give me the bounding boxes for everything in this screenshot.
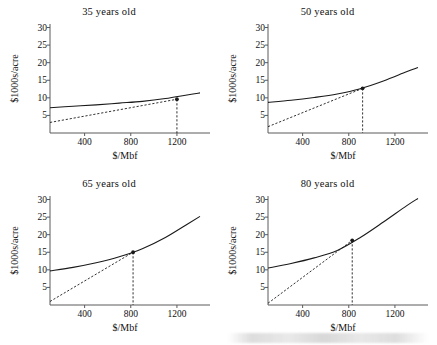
x-tick-label: 1200 (385, 309, 404, 319)
y-tick-label: 20 (256, 230, 266, 240)
axis-lines (50, 24, 210, 133)
plot-area: 510152025304008001200 (50, 24, 200, 133)
x-tick-label: 800 (342, 309, 356, 319)
panel-65-years: 65 years old $1000s/acre 510152025304008… (0, 172, 218, 345)
plot-area: 510152025304008001200 (268, 196, 418, 305)
y-tick-label: 15 (38, 247, 48, 257)
y-tick-label: 20 (38, 230, 48, 240)
y-tick-label: 5 (260, 110, 265, 120)
panel-title: 50 years old (218, 6, 437, 17)
y-tick-label: 30 (38, 23, 48, 33)
panel-title: 65 years old (0, 178, 218, 189)
y-tick-label: 10 (38, 265, 48, 275)
y-tick-label: 15 (256, 247, 266, 257)
y-tick-label: 25 (38, 40, 48, 50)
value-curve-line (268, 68, 418, 103)
plot-svg (50, 196, 200, 305)
panel-50-years: 50 years old $1000s/acre 510152025304008… (218, 0, 437, 172)
plot-svg (50, 24, 200, 133)
x-tick-label: 800 (124, 137, 138, 147)
x-tick-label: 1200 (167, 137, 186, 147)
y-tick-label: 10 (38, 93, 48, 103)
tangent-ray-line (50, 99, 177, 122)
x-axis-label: $/Mbf (268, 150, 418, 161)
x-tick-label: 400 (295, 309, 309, 319)
plot-svg (268, 196, 418, 305)
x-axis-label: $/Mbf (50, 322, 200, 333)
y-tick-label: 30 (256, 23, 266, 33)
y-tick-label: 5 (260, 282, 265, 292)
tangency-point-marker (131, 250, 135, 254)
tangency-point-marker (175, 97, 179, 101)
panel-80-years: 80 years old $1000s/acre 510152025304008… (218, 172, 437, 345)
y-axis-label: $1000s/acre (6, 196, 22, 305)
y-axis-label: $1000s/acre (224, 196, 240, 305)
y-tick-label: 30 (256, 195, 266, 205)
tangent-ray-line (268, 88, 363, 126)
y-tick-label: 25 (256, 40, 266, 50)
panel-title: 35 years old (0, 6, 218, 17)
panel-35-years: 35 years old $1000s/acre 510152025304008… (0, 0, 218, 172)
y-tick-label: 30 (38, 195, 48, 205)
axis-lines (268, 196, 428, 305)
y-tick-label: 20 (256, 58, 266, 68)
tangency-point-marker (361, 86, 365, 90)
x-tick-label: 1200 (167, 309, 186, 319)
plot-area: 510152025304008001200 (268, 24, 418, 133)
y-tick-label: 10 (256, 93, 266, 103)
tangency-point-marker (350, 238, 354, 242)
y-tick-label: 15 (38, 75, 48, 85)
y-tick-label: 20 (38, 58, 48, 68)
y-tick-label: 10 (256, 265, 266, 275)
y-tick-label: 5 (42, 110, 47, 120)
x-tick-label: 400 (77, 309, 91, 319)
x-axis-label: $/Mbf (268, 322, 418, 333)
x-tick-label: 800 (124, 309, 138, 319)
y-tick-label: 25 (38, 212, 48, 222)
plot-svg (268, 24, 418, 133)
x-tick-label: 400 (77, 137, 91, 147)
y-tick-label: 5 (42, 282, 47, 292)
tangent-ray-line (50, 252, 133, 301)
y-tick-label: 15 (256, 75, 266, 85)
axis-lines (50, 196, 210, 305)
plot-area: 510152025304008001200 (50, 196, 200, 305)
tangent-ray-line (268, 240, 352, 303)
value-curve-line (268, 198, 418, 268)
value-curve-line (50, 216, 200, 271)
x-tick-label: 400 (295, 137, 309, 147)
panel-title: 80 years old (218, 178, 437, 189)
y-axis-label: $1000s/acre (224, 24, 240, 133)
y-tick-label: 25 (256, 212, 266, 222)
x-tick-label: 800 (342, 137, 356, 147)
y-axis-label: $1000s/acre (6, 24, 22, 133)
x-axis-label: $/Mbf (50, 150, 200, 161)
figure-panel-grid: 35 years old $1000s/acre 510152025304008… (0, 0, 437, 345)
x-tick-label: 1200 (385, 137, 404, 147)
